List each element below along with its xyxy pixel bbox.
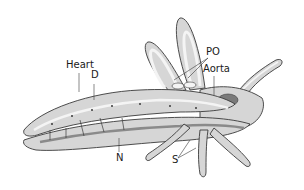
label-po: PO — [206, 47, 220, 57]
label-n: N — [116, 153, 123, 163]
label-d: D — [91, 70, 99, 80]
label-s: S — [172, 155, 178, 165]
branchial-plumes — [145, 18, 205, 92]
label-aorta: Aorta — [203, 64, 230, 74]
label-heart: Heart — [66, 60, 94, 70]
diagram-canvas — [0, 0, 304, 190]
